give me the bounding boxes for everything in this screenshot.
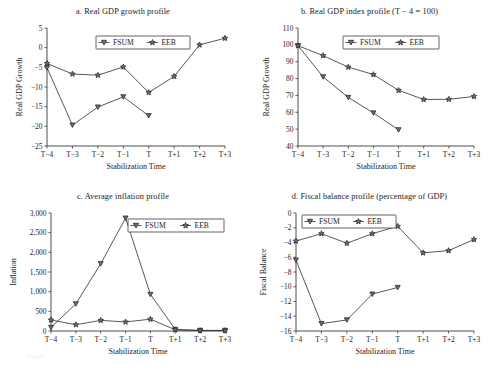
y-tick-label: 1,500 xyxy=(30,268,47,277)
x-tick-label: T−3 xyxy=(315,335,328,344)
panel-b-plot: 405060708090100110T−4T−3T−2T−1TT+1T+2T+3… xyxy=(246,0,493,185)
legend-label-fsum: FSUM xyxy=(360,38,381,47)
panel-b: b. Real GDP index profile (T − 4 = 100) … xyxy=(246,0,493,185)
x-tick-label: T+2 xyxy=(194,335,207,344)
data-point-eeb xyxy=(446,248,452,253)
legend-label-fsum: FSUM xyxy=(319,217,340,226)
legend-label-eeb: EEB xyxy=(367,217,381,226)
x-tick-label: T+2 xyxy=(442,335,455,344)
data-point-fsum xyxy=(123,216,128,221)
x-axis-title: Stabilization Time xyxy=(107,162,166,171)
panel-c: c. Average inflation profile 05001,0001,… xyxy=(0,185,246,367)
y-tick-label: −8 xyxy=(284,268,292,277)
y-tick-label: 0 xyxy=(39,43,43,52)
legend-box xyxy=(96,36,190,49)
panel-c-svg: 05001,0001,5002,0002,5003,000T−4T−3T−2T−… xyxy=(0,185,246,367)
x-tick-label: T+1 xyxy=(168,150,181,159)
y-axis-title: Real GDP Growth xyxy=(15,58,24,117)
x-tick-label: T−4 xyxy=(290,335,303,344)
data-point-eeb xyxy=(98,317,104,322)
x-tick-label: T+3 xyxy=(219,335,232,344)
x-tick-label: T+3 xyxy=(468,335,481,344)
x-tick-label: T−3 xyxy=(66,150,79,159)
legend-label-eeb: EEB xyxy=(195,221,209,230)
data-point-eeb xyxy=(446,96,452,101)
y-tick-label: 1,000 xyxy=(30,287,47,296)
x-tick-label: T−4 xyxy=(292,150,305,159)
panel-d-plot: −16−14−12−10−8−6−4−20T−4T−3T−2T−1TT+1T+2… xyxy=(246,185,493,367)
y-axis-title: Fiscal Balance xyxy=(259,248,268,295)
data-point-fsum xyxy=(148,292,153,297)
x-axis-title: Stabilization Time xyxy=(357,162,416,171)
y-tick-label: 0 xyxy=(288,209,292,218)
y-tick-label: 3,000 xyxy=(30,209,47,218)
data-point-fsum xyxy=(70,123,75,128)
data-point-fsum xyxy=(294,258,299,263)
series-line-eeb xyxy=(298,46,474,100)
data-point-fsum xyxy=(49,325,54,330)
x-tick-label: T xyxy=(395,335,400,344)
x-tick-label: T+2 xyxy=(193,150,206,159)
x-tick-label: T−1 xyxy=(117,150,130,159)
legend-box xyxy=(302,215,396,228)
data-point-eeb xyxy=(471,237,477,242)
x-tick-label: T−3 xyxy=(317,150,330,159)
panel-a-svg: −25−20−15−10−505T−4T−3T−2T−1TT+1T+2T+3St… xyxy=(0,0,246,185)
data-point-eeb xyxy=(421,97,427,102)
series-line-fsum xyxy=(296,260,398,323)
panel-a-plot: −25−20−15−10−505T−4T−3T−2T−1TT+1T+2T+3St… xyxy=(0,0,246,185)
x-tick-label: T−2 xyxy=(341,335,354,344)
x-axis-title: Stabilization Time xyxy=(356,347,415,356)
data-point-eeb xyxy=(73,322,79,327)
y-tick-label: 80 xyxy=(286,74,294,83)
legend-label-fsum: FSUM xyxy=(113,38,134,47)
y-tick-label: −20 xyxy=(31,122,43,131)
data-point-fsum xyxy=(371,111,376,116)
y-axis-title: Real GDP Growth xyxy=(262,58,271,117)
legend-box xyxy=(343,36,439,49)
x-tick-label: T−3 xyxy=(70,335,83,344)
panel-d: d. Fiscal balance profile (percentage of… xyxy=(246,185,493,367)
data-point-fsum xyxy=(45,66,50,71)
panel-c-plot: 05001,0001,5002,0002,5003,000T−4T−3T−2T−… xyxy=(0,185,246,367)
series-line-fsum xyxy=(298,46,399,130)
x-tick-label: T−4 xyxy=(45,335,58,344)
y-tick-label: −10 xyxy=(280,282,292,291)
y-tick-label: −5 xyxy=(35,63,43,72)
data-point-eeb xyxy=(396,87,402,92)
data-point-eeb xyxy=(346,64,352,69)
x-tick-label: T−2 xyxy=(342,150,355,159)
y-tick-label: −6 xyxy=(284,253,292,262)
y-tick-label: 50 xyxy=(286,125,294,134)
data-point-eeb xyxy=(319,231,325,236)
x-tick-label: T−1 xyxy=(366,335,379,344)
x-tick-label: T−1 xyxy=(119,335,132,344)
data-point-fsum xyxy=(98,262,103,267)
y-tick-label: 60 xyxy=(286,108,294,117)
x-tick-label: T+1 xyxy=(169,335,182,344)
y-axis-title: Inflation xyxy=(9,258,18,286)
data-point-eeb xyxy=(70,71,76,76)
y-tick-label: 90 xyxy=(286,57,294,66)
x-tick-label: T+2 xyxy=(443,150,456,159)
data-point-eeb xyxy=(44,61,50,66)
figure-caption: Figure xyxy=(26,352,44,360)
panel-a: a. Real GDP growth profile −25−20−15−10−… xyxy=(0,0,246,185)
x-tick-label: T+3 xyxy=(468,150,481,159)
data-point-eeb xyxy=(148,316,154,321)
x-tick-label: T+1 xyxy=(417,335,430,344)
y-tick-label: −10 xyxy=(31,83,43,92)
y-tick-label: −12 xyxy=(280,297,292,306)
data-point-fsum xyxy=(346,95,351,100)
y-tick-label: 2,500 xyxy=(30,228,47,237)
data-point-fsum xyxy=(146,114,151,119)
data-point-eeb xyxy=(123,319,129,324)
x-axis-title: Stabilization Time xyxy=(109,347,168,356)
x-tick-label: T−2 xyxy=(92,150,105,159)
y-tick-label: 5 xyxy=(39,24,43,33)
data-point-eeb xyxy=(370,231,376,236)
y-tick-label: 70 xyxy=(286,91,294,100)
legend-label-eeb: EEB xyxy=(161,38,175,47)
legend-label-fsum: FSUM xyxy=(145,221,166,230)
legend-box xyxy=(128,219,224,232)
